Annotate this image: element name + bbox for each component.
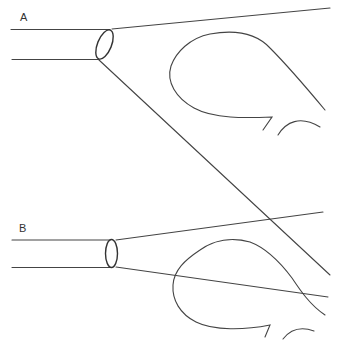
panel-a (11, 8, 330, 275)
panel-b (12, 212, 328, 339)
tube-a-aperture (92, 28, 117, 62)
balloon-b-tail-arc (283, 329, 314, 339)
diagram-canvas (0, 0, 338, 343)
balloon-a-outline (170, 32, 325, 130)
balloon-b-outline (173, 240, 325, 337)
beam-b-lower-ray (116, 267, 328, 297)
balloon-a-tail-arc (278, 121, 320, 135)
tube-b-aperture (106, 240, 118, 268)
beam-b-upper-ray (116, 212, 323, 240)
beam-a-upper-ray (112, 8, 330, 29)
